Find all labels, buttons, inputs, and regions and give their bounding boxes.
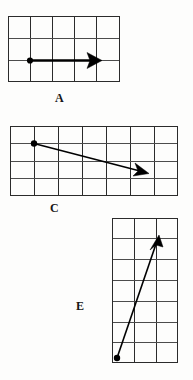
panel-e-grid <box>112 218 178 363</box>
grid-a-horizontal-lines <box>8 39 120 61</box>
panel-c-grid <box>10 126 178 196</box>
arrow-c-tail-dot <box>31 140 37 146</box>
grid-e-vertical-lines <box>135 218 157 363</box>
grid-a-svg <box>8 16 120 82</box>
grid-c-horizontal-lines <box>10 144 178 179</box>
grid-a-vertical-lines <box>31 16 97 82</box>
panel-a-grid <box>8 16 120 82</box>
arrow-e-tail-dot <box>114 355 120 361</box>
grid-e-svg <box>112 218 178 363</box>
arrow-c <box>31 140 149 176</box>
grid-a-border <box>9 17 120 82</box>
grid-e-horizontal-lines <box>112 239 178 343</box>
panel-label-c: C <box>50 202 59 214</box>
grid-c-svg <box>10 126 178 196</box>
arrow-a <box>27 53 102 69</box>
arrow-a-tail-dot <box>27 57 33 63</box>
panel-label-e: E <box>76 300 84 312</box>
panel-label-a: A <box>55 92 64 104</box>
vector-diagram-figure: A C <box>0 0 193 380</box>
